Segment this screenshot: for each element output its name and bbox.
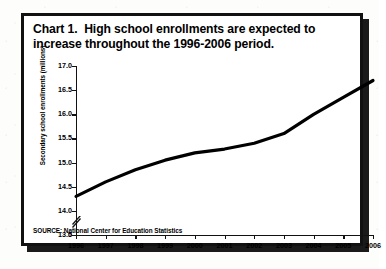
y-axis-tick-label: 16.0 [46,110,72,118]
source-note: SOURCE: National Center for Education St… [33,227,182,234]
x-axis-tick-mark [373,235,374,239]
y-axis-tick-label: 14.0 [46,207,72,215]
x-axis-tick-label: 2006 [356,241,386,250]
data-series-line [76,66,373,236]
chart-figure: Chart 1. High school enrollments are exp… [21,13,363,246]
y-axis-tick-labels: 13.514.014.515.015.516.016.517.00 [44,16,72,243]
y-axis-tick-label: 15.0 [46,159,72,167]
y-axis-tick-label: 14.5 [46,183,72,191]
y-axis-tick-label: 15.5 [46,134,72,142]
y-axis-tick-label: 16.5 [46,86,72,94]
plot-region: Secondary school enrollments (millions) … [24,16,360,243]
y-axis-tick-label: 17.0 [46,62,72,70]
